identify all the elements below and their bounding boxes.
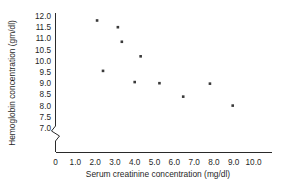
data-point xyxy=(231,104,234,107)
y-tick-label: 12.0 xyxy=(35,12,51,21)
y-axis-title: Hemoglobin concentration (gm/dl) xyxy=(7,20,17,146)
data-point xyxy=(133,81,136,84)
y-tick-label: 11.5 xyxy=(36,23,52,32)
y-tick-label: 10.0 xyxy=(35,57,51,66)
x-tick-label: 2.0 xyxy=(89,158,101,167)
y-axis-tick-labels: 7.07.58.08.59.09.510.010.511.011.512.0 xyxy=(35,12,51,133)
x-axis-tick-labels: 01.02.03.04.05.06.07.08.09.010.0 xyxy=(53,158,262,167)
y-tick-label: 7.0 xyxy=(40,124,52,133)
x-tick-label: 8.0 xyxy=(208,158,220,167)
data-point-group xyxy=(96,19,234,107)
y-tick-label: 9.5 xyxy=(40,68,52,77)
y-axis-break-mark xyxy=(52,126,60,152)
x-tick-label: 0 xyxy=(53,158,58,167)
data-point xyxy=(139,55,142,58)
data-point xyxy=(117,26,120,29)
data-point xyxy=(209,82,212,85)
y-tick-label: 11.0 xyxy=(36,34,52,43)
x-tick-label: 3.0 xyxy=(109,158,121,167)
x-tick-label: 1.0 xyxy=(70,158,82,167)
y-tick-label: 8.5 xyxy=(40,90,52,99)
y-tick-label: 7.5 xyxy=(40,113,52,122)
x-tick-label: 10.0 xyxy=(246,158,262,167)
x-tick-label: 9.0 xyxy=(228,158,240,167)
data-point xyxy=(158,82,161,85)
plot-canvas: 7.07.58.08.59.09.510.010.511.011.512.0 0… xyxy=(0,0,282,188)
y-tick-label: 9.0 xyxy=(40,79,52,88)
x-tick-label: 4.0 xyxy=(129,158,141,167)
scatter-plot-figure: 7.07.58.08.59.09.510.010.511.011.512.0 0… xyxy=(0,0,282,188)
data-point xyxy=(121,40,124,43)
data-point xyxy=(96,19,99,22)
x-tick-label: 6.0 xyxy=(169,158,181,167)
y-tick-label: 10.5 xyxy=(35,46,51,55)
y-tick-label: 8.0 xyxy=(40,102,52,111)
x-tick-label: 5.0 xyxy=(149,158,161,167)
data-point xyxy=(102,70,105,73)
x-tick-label: 7.0 xyxy=(188,158,200,167)
data-point xyxy=(182,95,185,98)
x-axis-title: Serum creatinine concentration (mg/dl) xyxy=(86,169,231,179)
